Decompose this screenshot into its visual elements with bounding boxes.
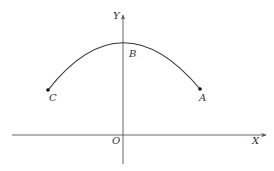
point-c-label: C [49, 92, 57, 103]
arc-curve [48, 43, 200, 90]
point-a-label: A [198, 92, 206, 103]
coordinate-diagram: Y X O B C A [0, 0, 274, 171]
y-axis-label: Y [113, 10, 121, 21]
point-b-label: B [128, 48, 136, 59]
x-axis-label: X [251, 135, 260, 146]
point-a [198, 87, 202, 91]
origin-label: O [112, 135, 120, 146]
